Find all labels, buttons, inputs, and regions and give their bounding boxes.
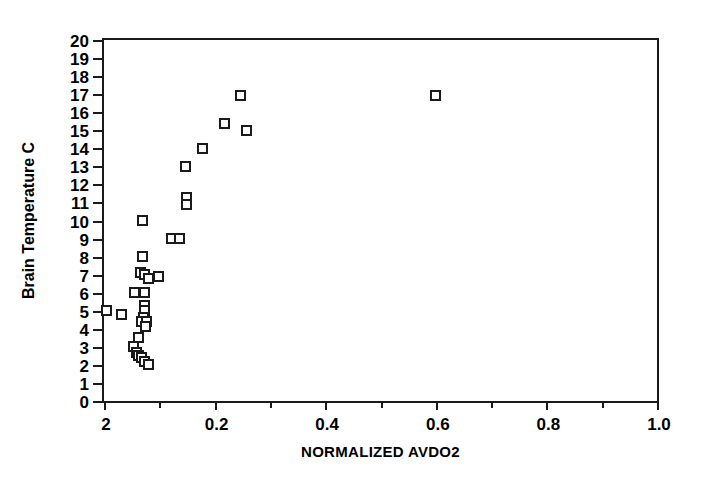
y-axis-tick: 6: [93, 293, 104, 295]
data-point-marker: [143, 359, 154, 370]
y-axis-tick: 17: [93, 94, 104, 96]
data-point-marker: [101, 305, 112, 316]
x-axis-tick-label: 2: [101, 415, 110, 435]
x-axis-minor-tick: [159, 401, 161, 408]
data-point-marker: [181, 199, 192, 210]
x-axis-minor-tick: [270, 401, 272, 408]
x-axis-tick-label: 0.4: [315, 415, 339, 435]
y-axis-tick: 11: [93, 202, 104, 204]
y-axis-tick: 7: [93, 275, 104, 277]
x-axis-tick: 1.0: [657, 401, 659, 410]
y-axis-tick: 14: [93, 148, 104, 150]
data-point-marker: [133, 332, 144, 343]
x-axis-tick: 0.2: [215, 401, 217, 410]
y-axis-tick: 19: [93, 58, 104, 60]
y-axis-tick: 2: [93, 365, 104, 367]
data-point-marker: [197, 143, 208, 154]
data-point-marker: [235, 90, 246, 101]
data-point-marker: [241, 125, 252, 136]
data-point-marker: [140, 321, 151, 332]
y-axis-title: Brain Temperature C: [16, 38, 42, 403]
data-point-marker: [137, 251, 148, 262]
data-point-marker: [129, 287, 140, 298]
x-axis-tick: 0.4: [325, 401, 327, 410]
data-point-marker: [153, 271, 164, 282]
x-axis-tick-label: 0.8: [537, 415, 561, 435]
data-point-marker: [180, 161, 191, 172]
x-axis-tick: 2: [104, 401, 106, 410]
x-axis-minor-tick: [491, 401, 493, 408]
y-axis-tick: 1: [93, 383, 104, 385]
y-axis-tick: 16: [93, 112, 104, 114]
y-axis-tick: 18: [93, 76, 104, 78]
data-point-marker: [116, 309, 127, 320]
data-point-marker: [139, 287, 150, 298]
data-point-marker: [430, 90, 441, 101]
x-axis-tick: 0.8: [546, 401, 548, 410]
x-axis-tick-label: 1.0: [647, 415, 671, 435]
x-axis-minor-tick: [381, 401, 383, 408]
x-axis-title: NORMALIZED AVDO2: [102, 443, 659, 460]
x-axis-tick: 0.6: [436, 401, 438, 410]
data-point-marker: [137, 215, 148, 226]
data-point-marker: [174, 233, 185, 244]
y-axis-tick: 8: [93, 257, 104, 259]
y-axis-tick: 0: [93, 401, 104, 403]
x-axis-tick-label: 0.2: [205, 415, 229, 435]
data-point-marker: [219, 118, 230, 129]
y-axis-tick: 13: [93, 166, 104, 168]
x-axis-minor-tick: [602, 401, 604, 408]
y-axis-tick: 9: [93, 239, 104, 241]
y-axis-tick: 15: [93, 130, 104, 132]
y-axis-tick-label: 20: [55, 31, 89, 53]
x-axis-tick-label: 0.6: [426, 415, 450, 435]
y-axis-tick: 10: [93, 221, 104, 223]
y-axis-tick: 20: [93, 40, 104, 42]
plot-frame: 0123456789101112131415161718192020.20.40…: [102, 38, 659, 403]
y-axis-tick: 12: [93, 184, 104, 186]
y-axis-tick: 3: [93, 347, 104, 349]
scatter-plot-figure: Brain Temperature C 01234567891011121314…: [0, 0, 705, 479]
y-axis-tick: 4: [93, 329, 104, 331]
